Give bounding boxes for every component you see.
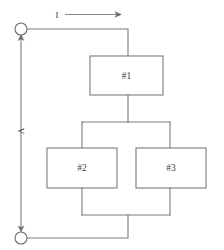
wire-top-supply [27, 29, 128, 56]
current-label: I [56, 10, 59, 20]
voltage-label: V [16, 128, 26, 135]
terminal-top-node[interactable] [15, 23, 27, 35]
terminal-bottom-node[interactable] [15, 232, 27, 244]
block-3-label: #3 [166, 163, 176, 173]
block-1-label: #1 [122, 71, 132, 81]
wire-bottom-return [27, 215, 128, 238]
block-2-label: #2 [77, 163, 87, 173]
circuit-diagram-canvas: I V #1 #2 #3 [0, 0, 224, 250]
circuit-diagram-svg: I V #1 #2 #3 [0, 0, 224, 250]
